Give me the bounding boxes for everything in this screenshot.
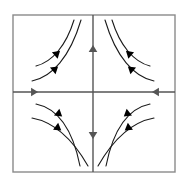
figure-background	[0, 0, 189, 182]
phase-portrait-figure	[0, 0, 189, 182]
phase-portrait-canvas	[0, 0, 189, 182]
